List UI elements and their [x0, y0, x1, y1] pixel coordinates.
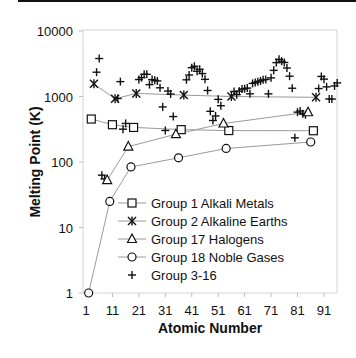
square-marker — [225, 127, 233, 135]
x-tick-label: 21 — [132, 303, 146, 318]
square-marker — [130, 123, 138, 131]
y-tick-label: 100 — [51, 155, 73, 170]
y-tick-label: 1000 — [44, 90, 73, 105]
x-tick-label: 31 — [158, 303, 172, 318]
y-tick-label: 1 — [66, 286, 73, 301]
circle-marker — [106, 197, 114, 205]
square-marker — [108, 121, 116, 129]
circle-marker — [127, 163, 135, 171]
legend-circle-icon — [128, 253, 136, 261]
y-tick-label: 10000 — [37, 24, 73, 39]
x-tick-label: 51 — [211, 303, 225, 318]
legend-label: Group 2 Alkaline Earths — [151, 214, 288, 229]
legend-label: Group 1 Alkali Metals — [151, 196, 274, 211]
x-tick-label: 11 — [106, 303, 120, 318]
legend-label: Group 18 Noble Gases — [151, 250, 284, 265]
circle-marker — [222, 144, 230, 152]
legend-square-icon — [128, 199, 136, 207]
circle-marker — [175, 154, 183, 162]
x-axis-ticks: 1112131415161718191 — [82, 293, 331, 318]
y-axis-ticks: 110100100010000 — [37, 24, 83, 301]
legend-label: Group 17 Halogens — [151, 232, 264, 247]
melting-point-chart: 110100100010000 1112131415161718191 Grou… — [0, 0, 356, 358]
square-marker — [177, 126, 185, 134]
square-marker — [87, 115, 95, 123]
x-tick-label: 1 — [82, 303, 89, 318]
x-tick-label: 61 — [237, 303, 251, 318]
circle-marker — [307, 138, 315, 146]
x-tick-label: 71 — [264, 303, 278, 318]
square-marker — [309, 127, 317, 135]
x-tick-label: 41 — [185, 303, 199, 318]
x-tick-label: 81 — [290, 303, 304, 318]
y-axis-title: Melting Point (K) — [27, 106, 43, 217]
x-tick-label: 91 — [317, 303, 331, 318]
legend-label: Group 3-16 — [151, 268, 217, 283]
x-axis-title: Atomic Number — [158, 320, 263, 336]
circle-marker — [85, 289, 93, 297]
y-tick-label: 10 — [59, 221, 73, 236]
